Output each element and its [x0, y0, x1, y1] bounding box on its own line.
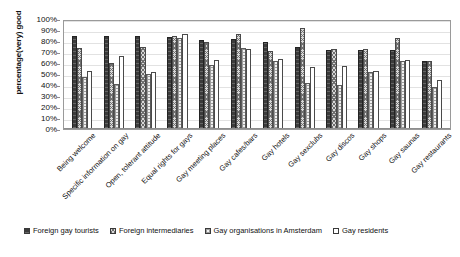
legend-swatch-icon — [333, 228, 339, 234]
y-axis-tick-mark — [57, 31, 60, 32]
x-axis-tick-label: Gay shops — [357, 131, 389, 163]
legend-item[interactable]: Gay residents — [333, 226, 388, 235]
y-axis-tick-mark — [57, 20, 60, 21]
x-axis-labels: Being welcomeSpecific information on gay… — [63, 131, 451, 213]
legend-item[interactable]: Foreign gay tourists — [24, 226, 99, 235]
bar[interactable] — [373, 71, 378, 129]
x-axis-tick-label: Gay hotels — [260, 131, 292, 163]
y-axis-tick-mark — [57, 64, 60, 65]
y-axis-tick-mark — [57, 97, 60, 98]
bar-group — [66, 21, 98, 129]
bar[interactable] — [342, 66, 347, 129]
legend-item[interactable]: Foreign intermediaries — [110, 226, 194, 235]
legend-label: Gay residents — [342, 226, 388, 235]
y-axis-tick-mark — [57, 86, 60, 87]
bar-group — [130, 21, 162, 129]
bar[interactable] — [437, 80, 442, 130]
y-axis-tick-label: 10% — [41, 115, 57, 123]
legend-item[interactable]: Gay organisations in Amsterdam — [205, 226, 322, 235]
plot-area — [63, 20, 451, 130]
y-axis-tick-mark — [57, 75, 60, 76]
y-axis-tick-label: 30% — [41, 93, 57, 101]
x-axis-tick-label: Open, tolerant attitude — [103, 131, 162, 190]
y-axis-tick-label: 20% — [41, 104, 57, 112]
bar[interactable] — [151, 72, 156, 129]
bar[interactable] — [214, 60, 219, 129]
y-axis-tick-mark — [57, 130, 60, 131]
y-axis-tick-mark — [57, 119, 60, 120]
y-axis-tick-mark — [57, 42, 60, 43]
x-axis-tick-label: Gay discos — [324, 131, 357, 164]
bar[interactable] — [182, 34, 187, 129]
bar-group — [289, 21, 321, 129]
y-axis-ticks: 100%90%80%70%60%50%40%30%20%10%0% — [20, 20, 60, 130]
bar[interactable] — [246, 49, 251, 129]
bar-group — [384, 21, 416, 129]
y-axis-tick-mark — [57, 108, 60, 109]
bar[interactable] — [278, 59, 283, 129]
legend-label: Foreign intermediaries — [119, 226, 194, 235]
y-axis-tick-label: 70% — [41, 49, 57, 57]
y-axis-tick-label: 50% — [41, 71, 57, 79]
bar-group — [321, 21, 353, 129]
bar[interactable] — [87, 71, 92, 129]
y-axis-tick-label: 0% — [45, 126, 57, 134]
bar[interactable] — [119, 56, 124, 129]
y-axis-tick-label: 60% — [41, 60, 57, 68]
bar-group — [161, 21, 193, 129]
y-axis-tick-mark — [57, 53, 60, 54]
bar-group — [225, 21, 257, 129]
x-axis-line — [64, 128, 450, 129]
legend-swatch-icon — [110, 228, 116, 234]
bar-group — [193, 21, 225, 129]
legend-swatch-icon — [205, 228, 211, 234]
bar-group — [352, 21, 384, 129]
bar[interactable] — [310, 67, 315, 129]
bar-chart: percentage(very) good 100%90%80%70%60%50… — [0, 0, 460, 257]
y-axis-tick-label: 80% — [41, 38, 57, 46]
y-axis-tick-label: 90% — [41, 27, 57, 35]
bar[interactable] — [405, 60, 410, 129]
bar-group — [98, 21, 130, 129]
bar-groups — [64, 21, 450, 129]
chart-legend: Foreign gay touristsForeign intermediari… — [24, 226, 444, 235]
legend-label: Gay organisations in Amsterdam — [214, 226, 322, 235]
legend-swatch-icon — [24, 228, 30, 234]
bar-group — [416, 21, 448, 129]
y-axis-tick-label: 40% — [41, 82, 57, 90]
bar-group — [257, 21, 289, 129]
legend-label: Foreign gay tourists — [33, 226, 99, 235]
y-axis-tick-label: 100% — [37, 16, 57, 24]
